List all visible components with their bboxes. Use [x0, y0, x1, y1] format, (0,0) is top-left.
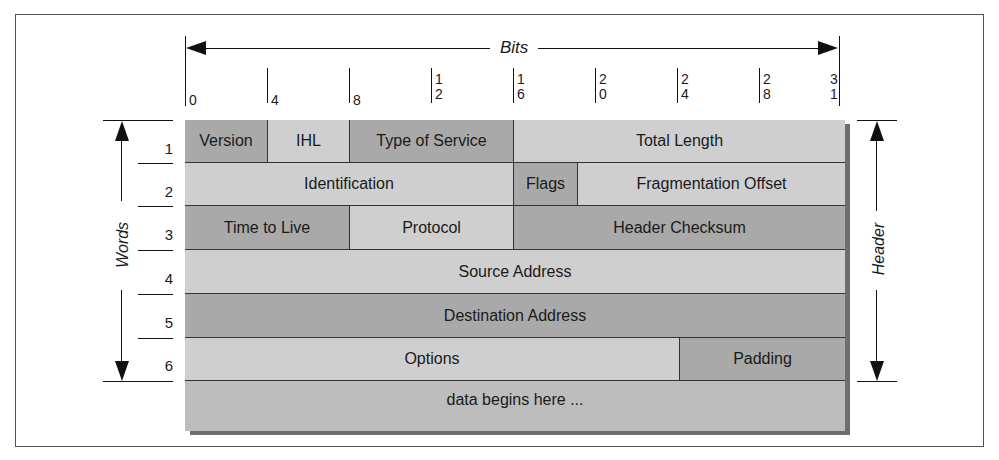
arrow-right-icon	[818, 41, 838, 55]
arrow-down-icon	[115, 361, 129, 381]
field-protocol: Protocol	[350, 206, 514, 250]
field-total-length: Total Length	[514, 120, 845, 163]
bits-axis-right-bound	[839, 36, 840, 106]
field-fragmentation-offset: Fragmentation Offset	[578, 163, 845, 206]
word-number: 2	[159, 183, 173, 200]
arrow-up-icon	[115, 121, 129, 141]
arrow-down-icon	[870, 361, 884, 381]
header-axis-label: Header	[870, 217, 888, 281]
bits-axis-label: Bits	[490, 38, 538, 58]
arrow-left-icon	[186, 41, 206, 55]
field-time-to-live: Time to Live	[185, 206, 350, 250]
field-options: Options	[185, 338, 680, 381]
data-begins-row: data begins here ...	[185, 381, 845, 431]
word-number: 4	[159, 270, 173, 287]
field-destination-address: Destination Address	[185, 294, 845, 338]
word-number: 1	[159, 140, 173, 157]
word-number: 6	[159, 357, 173, 374]
words-axis-label: Words	[114, 216, 132, 274]
field-ihl: IHL	[268, 120, 350, 163]
ip-packet-header: Version IHL Type of Service Total Length…	[185, 120, 845, 431]
field-source-address: Source Address	[185, 250, 845, 294]
word-number: 3	[159, 226, 173, 243]
arrow-up-icon	[870, 121, 884, 141]
field-identification: Identification	[185, 163, 514, 206]
field-flags: Flags	[514, 163, 578, 206]
word-number: 5	[159, 314, 173, 331]
field-type-of-service: Type of Service	[350, 120, 514, 163]
field-version: Version	[185, 120, 268, 163]
field-header-checksum: Header Checksum	[514, 206, 845, 250]
field-padding: Padding	[680, 338, 845, 381]
